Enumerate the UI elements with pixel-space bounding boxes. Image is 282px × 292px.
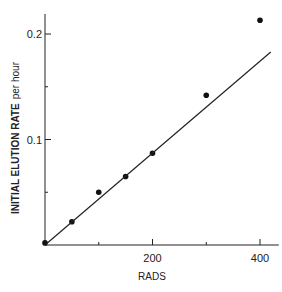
data-point <box>96 189 102 195</box>
data-point <box>203 92 209 98</box>
series <box>42 17 271 245</box>
y-tick-label: 0.2 <box>27 28 42 40</box>
y-axis-title-main: INITIAL ELUTION RATE <box>10 103 21 214</box>
chart: 2004000.10.2 RADS INITIAL ELUTION RATEpe… <box>0 0 282 292</box>
axes: 2004000.10.2 <box>27 14 279 264</box>
x-tick-label: 400 <box>251 252 269 264</box>
data-point <box>257 17 263 23</box>
x-tick-label: 200 <box>143 252 161 264</box>
x-axis-title: RADS <box>138 271 166 282</box>
fit-line <box>45 52 271 245</box>
y-tick-label: 0.1 <box>27 134 42 146</box>
y-axis-title-unit: per hour <box>10 61 21 99</box>
y-axis-title: INITIAL ELUTION RATEper hour <box>10 61 21 214</box>
